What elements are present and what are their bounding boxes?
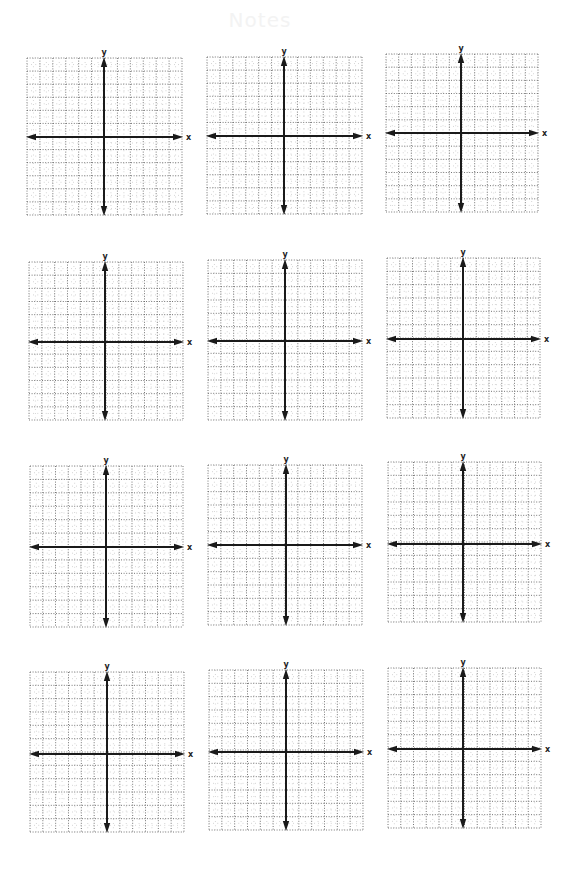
axes: [385, 53, 539, 213]
x-axis-right-arrow-icon: [529, 130, 539, 136]
x-axis-label: x: [366, 132, 372, 141]
y-axis-label: y: [283, 250, 289, 259]
y-axis-up-arrow-icon: [283, 464, 289, 474]
y-axis-up-arrow-icon: [102, 261, 108, 271]
axes: [206, 56, 363, 215]
coordinate-plane-3: yx: [378, 44, 552, 218]
x-axis-label: x: [367, 748, 373, 757]
x-axis-left-arrow-icon: [206, 133, 216, 139]
grid-lines: [388, 462, 541, 622]
x-axis-right-arrow-icon: [532, 746, 542, 752]
y-axis-label: y: [103, 252, 109, 261]
y-axis-down-arrow-icon: [101, 206, 107, 216]
y-axis-label: y: [459, 44, 465, 53]
x-axis-right-arrow-icon: [353, 133, 363, 139]
coordinate-plane-4: yx: [21, 252, 197, 426]
x-axis-left-arrow-icon: [26, 134, 36, 140]
axes: [28, 261, 184, 421]
y-axis-label: y: [282, 47, 288, 56]
y-axis-up-arrow-icon: [460, 257, 466, 267]
y-axis-label: y: [284, 660, 290, 669]
coordinate-plane-10: yx: [22, 662, 198, 838]
x-axis-left-arrow-icon: [28, 339, 38, 345]
y-axis-down-arrow-icon: [283, 616, 289, 626]
coordinate-plane-5: yx: [200, 250, 376, 426]
x-axis-label: x: [366, 541, 372, 550]
axes: [29, 671, 185, 833]
y-axis-up-arrow-icon: [460, 667, 466, 677]
y-axis-up-arrow-icon: [283, 669, 289, 679]
y-axis-up-arrow-icon: [460, 461, 466, 471]
x-axis-left-arrow-icon: [387, 746, 397, 752]
x-axis-label: x: [545, 745, 551, 754]
x-axis-left-arrow-icon: [386, 336, 396, 342]
x-axis-label: x: [188, 750, 194, 759]
coordinate-plane-6: yx: [379, 248, 554, 424]
x-axis-right-arrow-icon: [531, 336, 541, 342]
y-axis-up-arrow-icon: [101, 57, 107, 67]
coordinate-plane-11: yx: [201, 660, 377, 836]
y-axis-down-arrow-icon: [103, 618, 109, 628]
y-axis-down-arrow-icon: [460, 819, 466, 829]
x-axis-left-arrow-icon: [207, 542, 217, 548]
y-axis-down-arrow-icon: [281, 205, 287, 215]
axes: [207, 259, 363, 421]
coordinate-plane-7: yx: [22, 456, 197, 633]
y-axis-up-arrow-icon: [458, 53, 464, 63]
x-axis-right-arrow-icon: [353, 338, 363, 344]
x-axis-label: x: [542, 129, 548, 138]
x-axis-right-arrow-icon: [174, 339, 184, 345]
y-axis-label: y: [461, 658, 467, 667]
x-axis-left-arrow-icon: [29, 544, 39, 550]
y-axis-up-arrow-icon: [104, 671, 110, 681]
axes: [386, 257, 541, 419]
y-axis-label: y: [461, 248, 467, 257]
coordinate-plane-8: yx: [200, 455, 376, 631]
coordinate-plane-9: yx: [380, 452, 555, 628]
axes: [387, 667, 542, 829]
y-axis-up-arrow-icon: [282, 259, 288, 269]
coordinate-plane-2: yx: [199, 47, 376, 220]
axes: [208, 669, 364, 831]
y-axis-label: y: [104, 456, 110, 465]
x-axis-label: x: [545, 540, 551, 549]
x-axis-left-arrow-icon: [207, 338, 217, 344]
y-axis-down-arrow-icon: [283, 821, 289, 831]
x-axis-label: x: [366, 337, 372, 346]
axes: [29, 465, 184, 628]
y-axis-label: y: [284, 455, 290, 464]
x-axis-right-arrow-icon: [174, 544, 184, 550]
axes: [26, 57, 183, 216]
y-axis-up-arrow-icon: [103, 465, 109, 475]
y-axis-label: y: [461, 452, 467, 461]
y-axis-up-arrow-icon: [281, 56, 287, 66]
y-axis-label: y: [102, 48, 108, 57]
x-axis-label: x: [187, 338, 193, 347]
x-axis-label: x: [187, 543, 193, 552]
ghost-title: Notes: [215, 8, 305, 32]
y-axis-label: y: [105, 662, 111, 671]
y-axis-down-arrow-icon: [102, 411, 108, 421]
x-axis-label: x: [544, 335, 550, 344]
x-axis-left-arrow-icon: [385, 130, 395, 136]
y-axis-down-arrow-icon: [460, 613, 466, 623]
coordinate-plane-1: yx: [19, 48, 196, 221]
y-axis-down-arrow-icon: [104, 823, 110, 833]
axes: [207, 464, 363, 626]
x-axis-right-arrow-icon: [353, 542, 363, 548]
x-axis-label: x: [186, 133, 192, 142]
y-axis-down-arrow-icon: [458, 203, 464, 213]
y-axis-down-arrow-icon: [282, 411, 288, 421]
x-axis-right-arrow-icon: [173, 134, 183, 140]
y-axis-down-arrow-icon: [460, 409, 466, 419]
coordinate-plane-12: yx: [380, 658, 555, 834]
